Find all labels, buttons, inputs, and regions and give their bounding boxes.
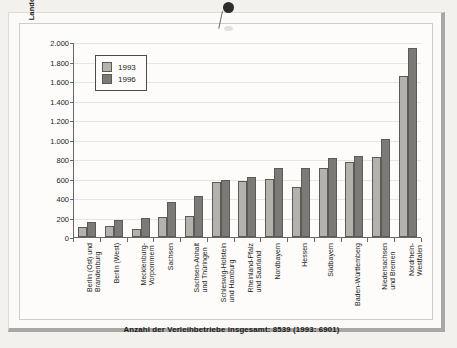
legend-swatch-1996 [102,74,112,84]
bar-1996 [194,196,203,237]
x-axis-category-labels: Berlin (Ost) undBrandenburgBerlin (West)… [73,243,421,321]
bar-1996 [141,218,150,237]
x-axis-tick [234,238,235,242]
bar-1993 [158,217,167,237]
bar-group [154,43,181,237]
bar-1993 [105,226,114,237]
x-axis-label-cell: Niedersachsenund Bremen [367,243,394,321]
y-axis-tick-label: 600 [56,175,69,184]
bar-chart: Landesarbeitsamtsbezirke 2.0001.8001.600… [29,33,434,333]
x-axis-label-line: Baden-Württemberg [354,243,362,306]
y-axis-tick-label: 400 [56,195,69,204]
x-axis-label-cell: Hessen [287,243,314,321]
x-axis-label-line: Nordbayern [274,243,282,280]
x-axis-label: Hessen [301,243,309,267]
bar-1993 [345,162,354,237]
x-axis-tick [180,238,181,242]
x-axis-label: Berlin (West) [113,243,121,283]
x-axis-label-cell: Sachsen [153,243,180,321]
bar-1993 [372,157,381,237]
y-axis-tick-label: 2.000 [50,39,69,48]
bar-1996 [408,48,417,237]
x-axis-label-line: Berlin (West) [113,243,121,283]
bar-1996 [87,222,96,237]
bar-group [207,43,234,237]
legend-item-1993: 1993 [102,62,136,72]
legend-label-1993: 1993 [118,63,136,72]
x-axis-tick [127,238,128,242]
bar-1996 [381,139,390,237]
bar-1996 [274,168,283,237]
chart-footnote: Anzahl der Verleihbetriebe insgesamt: 85… [29,325,434,334]
y-axis-tick-label: 1.800 [50,58,69,67]
bar-1996 [354,156,363,237]
bar-1996 [247,177,256,237]
pushpin-icon [215,2,241,32]
x-axis-label: Nordrhein-Westfalen [408,243,424,276]
bar-group [181,43,208,237]
x-axis-label-line: Südbayern [327,243,335,277]
x-axis-label-line: Niedersachsen [381,243,389,290]
x-axis-label-cell: Berlin (West) [100,243,127,321]
scanned-page-frame: Landesarbeitsamtsbezirke 2.0001.8001.600… [8,12,445,332]
bar-1993 [292,187,301,237]
x-axis-label-cell: Schleswig-Holsteinund Hamburg [207,243,234,321]
y-axis-tick-label: 0 [65,234,69,243]
x-axis-label: Nordbayern [274,243,282,280]
bar-1996 [221,180,230,237]
plot-area: 1993 1996 [73,43,421,238]
y-axis-tick-label: 1.200 [50,117,69,126]
bar-group [288,43,315,237]
x-axis-label-cell: Baden-Württemberg [341,243,368,321]
chart-legend: 1993 1996 [95,55,147,91]
bar-1996 [328,158,337,237]
pushpin-shadow [224,26,233,31]
legend-swatch-1993 [102,62,112,72]
bar-group [394,43,421,237]
bar-1996 [114,220,123,237]
bar-group [234,43,261,237]
x-axis-label-line: Sachsen [167,243,175,270]
x-axis-tick [367,238,368,242]
x-axis-tick [260,238,261,242]
bar-1993 [78,227,87,237]
x-axis-label-cell: Rheinland-Pfalzund Saarland [234,243,261,321]
x-axis-label: Baden-Württemberg [354,243,362,306]
y-axis-tick-label: 200 [56,214,69,223]
bar-1993 [319,168,328,237]
bar-1993 [238,181,247,237]
x-axis-tick [153,238,154,242]
x-axis-label-line: Rheinland-Pfalz [247,243,255,292]
x-axis-label-line: Schleswig-Holstein [220,243,228,302]
x-axis-tick [421,238,422,242]
x-axis-label-line: Mecklenburg- [140,243,148,285]
pushpin-head [223,2,234,13]
pushpin-stem [218,11,223,29]
y-axis-tick-label: 1.000 [50,136,69,145]
x-axis-tick [394,238,395,242]
x-axis-label-cell: Nordbayern [260,243,287,321]
x-axis-tick [73,238,74,242]
x-axis-label-cell: Südbayern [314,243,341,321]
y-axis-tick-label: 800 [56,156,69,165]
x-axis-label-line: Westfalen [416,243,424,276]
x-axis-label-cell: Berlin (Ost) undBrandenburg [73,243,100,321]
x-axis-tick [314,238,315,242]
bar-1993 [212,182,221,237]
x-axis-tick [100,238,101,242]
bar-group [314,43,341,237]
x-axis-tick [207,238,208,242]
bar-1993 [265,179,274,237]
y-axis-tick-labels: 2.0001.8001.6001.4001.2001.0008006004002… [29,43,69,238]
bar-1993 [399,76,408,237]
x-axis-label-cell: Nordrhein-Westfalen [394,243,421,321]
y-axis-tick-label: 1.400 [50,97,69,106]
x-axis-tick [287,238,288,242]
bar-1993 [185,216,194,237]
x-axis-label-cell: Sachsen-Anhaltund Thüringen [180,243,207,321]
bar-group [368,43,395,237]
x-axis-label: Sachsen [167,243,175,270]
x-axis-tick [341,238,342,242]
x-axis-label: Südbayern [327,243,335,277]
bar-1996 [301,168,310,237]
